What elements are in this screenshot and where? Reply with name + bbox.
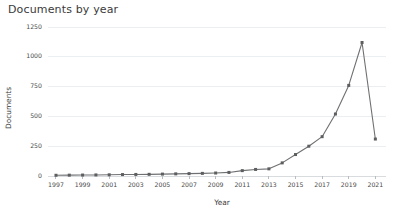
x-axis-tick-labels: 1997199920012003200520072009201120132015… (48, 181, 383, 188)
data-point-marker (347, 84, 350, 87)
y-tick-label: 250 (30, 142, 42, 149)
y-tick-label: 750 (30, 82, 42, 89)
data-point-marker (321, 135, 324, 138)
x-tick-label: 2011 (234, 181, 250, 188)
data-point-marker (134, 173, 137, 176)
data-series-group (54, 41, 376, 177)
data-point-marker (227, 171, 230, 174)
data-point-marker (174, 172, 177, 175)
y-tick-label: 1000 (26, 52, 42, 59)
line-chart-plot: 025050075010001250 199719992001200320052… (0, 0, 396, 211)
data-point-marker (148, 173, 151, 176)
data-point-marker (68, 174, 71, 177)
gridlines-group (48, 27, 386, 176)
x-tick-label: 2017 (314, 181, 330, 188)
data-point-marker (121, 173, 124, 176)
data-point-marker (294, 153, 297, 156)
data-point-marker (54, 174, 57, 177)
y-tick-label: 1250 (26, 23, 42, 30)
x-tick-label: 2001 (101, 181, 117, 188)
y-tick-label: 0 (38, 172, 42, 179)
x-tick-label: 1999 (75, 181, 91, 188)
x-tick-label: 2021 (367, 181, 383, 188)
x-axis-title: Year (213, 198, 231, 207)
data-point-marker (201, 172, 204, 175)
data-point-marker (214, 172, 217, 175)
chart-container: Documents by year 025050075010001250 199… (0, 0, 396, 211)
data-point-marker (94, 173, 97, 176)
y-axis-tick-labels: 025050075010001250 (26, 23, 42, 179)
x-tick-label: 2013 (261, 181, 277, 188)
data-point-marker (361, 41, 364, 44)
x-tick-label: 2009 (208, 181, 224, 188)
axes-group (48, 176, 386, 179)
data-point-marker (108, 173, 111, 176)
x-tick-label: 2005 (155, 181, 171, 188)
data-point-marker (334, 113, 337, 116)
x-tick-label: 2007 (181, 181, 197, 188)
data-point-marker (161, 173, 164, 176)
series-line (56, 42, 375, 175)
data-point-marker (307, 145, 310, 148)
y-axis-title: Documents (4, 87, 13, 129)
x-tick-label: 2019 (341, 181, 357, 188)
x-tick-label: 2003 (128, 181, 144, 188)
data-point-marker (241, 169, 244, 172)
x-tick-label: 2015 (288, 181, 304, 188)
data-point-marker (267, 167, 270, 170)
x-tick-label: 1997 (48, 181, 64, 188)
data-point-marker (188, 172, 191, 175)
data-point-marker (254, 168, 257, 171)
y-tick-label: 500 (30, 112, 42, 119)
data-point-marker (81, 174, 84, 177)
data-point-marker (374, 138, 377, 141)
data-point-marker (281, 161, 284, 164)
